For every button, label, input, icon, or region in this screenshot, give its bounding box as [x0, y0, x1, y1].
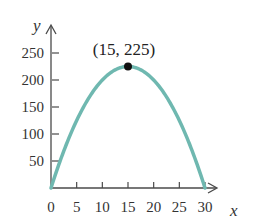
vertex-annotation: (15, 225)	[93, 40, 155, 59]
y-tick-label: 100	[22, 126, 45, 142]
x-ticks	[77, 182, 205, 188]
x-tick-label: 30	[198, 199, 213, 215]
parabola-chart: 051015202530 50100150200250 (15, 225) y …	[0, 0, 261, 224]
x-tick-labels: 051015202530	[47, 199, 212, 215]
y-tick-label: 50	[29, 153, 44, 169]
y-tick-label: 250	[22, 45, 45, 61]
y-axis-label: y	[31, 16, 41, 35]
x-tick-label: 15	[121, 199, 136, 215]
y-tick-label: 200	[22, 72, 45, 88]
parabola-curve	[51, 67, 205, 189]
vertex-point-marker	[124, 63, 132, 71]
y-tick-label: 150	[22, 99, 45, 115]
y-ticks	[52, 53, 59, 161]
x-tick-label: 0	[47, 199, 55, 215]
x-tick-label: 10	[95, 199, 110, 215]
x-tick-label: 5	[73, 199, 81, 215]
x-tick-label: 25	[172, 199, 187, 215]
y-tick-labels: 50100150200250	[22, 45, 45, 169]
x-tick-label: 20	[146, 199, 161, 215]
x-axis-label: x	[229, 201, 238, 220]
